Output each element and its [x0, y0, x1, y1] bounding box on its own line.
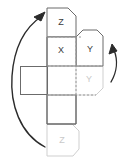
panel-top-z-label: Z: [58, 17, 64, 27]
left-rotation-arrow-head: [34, 12, 45, 21]
panel-bottom-z-label: Z: [59, 135, 65, 145]
panel-center-x-label: X: [58, 45, 64, 55]
diagram-canvas: Z Y Z Y X: [0, 0, 128, 162]
panel-bottom-blank-outline: [47, 95, 76, 124]
cube-net-diagram: Z Y Z Y X: [0, 0, 128, 162]
panel-right-upper-y-label: Y: [87, 44, 93, 54]
panel-left-outline: [21, 67, 48, 95]
right-rotation-arrow: [111, 50, 116, 82]
right-rotation-arrow-head: [109, 44, 117, 54]
panel-right-lower-y-label: Y: [86, 74, 92, 84]
